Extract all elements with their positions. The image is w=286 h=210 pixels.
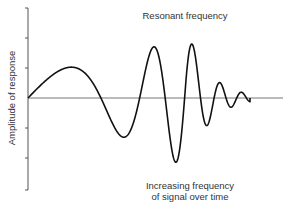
resonant-frequency-label: Resonant frequency [142,10,227,21]
increasing-frequency-caption: Increasing frequency of signal over time [146,180,234,202]
chirp-waveform [28,44,250,162]
caption-line-1: Increasing frequency [146,180,234,191]
y-axis-label: Amplitude of response [6,51,17,146]
caption-line-2: of signal over time [146,191,234,202]
resonance-diagram [0,0,286,210]
